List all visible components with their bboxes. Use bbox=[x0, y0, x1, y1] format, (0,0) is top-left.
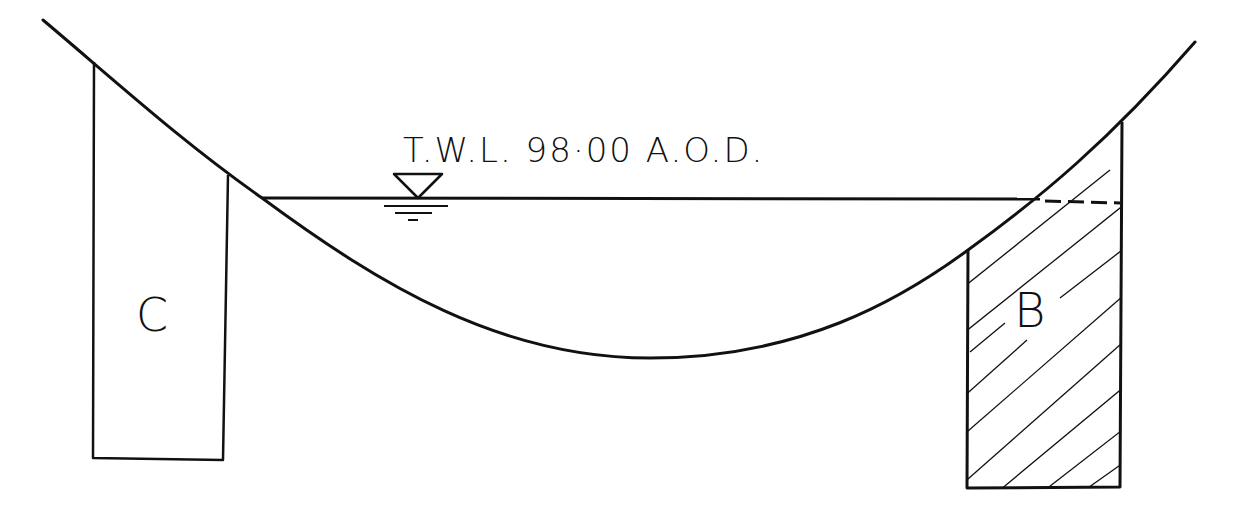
water-level-label: T.W.L. 98·00 A.O.D. bbox=[403, 130, 764, 170]
water-level-line bbox=[262, 198, 1040, 199]
block-b-label: B bbox=[1014, 282, 1045, 338]
water-level-line-dashed bbox=[1045, 201, 1120, 203]
cross-section-diagram bbox=[0, 0, 1238, 518]
block-c-label: C bbox=[136, 288, 168, 342]
